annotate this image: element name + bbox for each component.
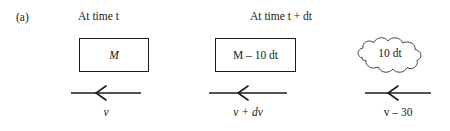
physics-figure-rocket-mass: (a) At time t At time t + dt M M – 10 dt… xyxy=(0,0,450,131)
mass-box-final: M – 10 dt xyxy=(215,38,296,72)
velocity-label-final: v + dv xyxy=(208,106,288,118)
velocity-arrow-final-icon xyxy=(208,85,288,101)
velocity-arrow-initial-icon xyxy=(70,85,142,101)
column-header-initial-time: At time t xyxy=(78,10,119,23)
mass-box-initial-label: M xyxy=(109,49,119,61)
velocity-label-initial: v xyxy=(70,106,142,118)
mass-box-final-label: M – 10 dt xyxy=(233,49,278,61)
part-label: (a) xyxy=(16,11,29,24)
velocity-arrow-exhaust-icon xyxy=(364,85,432,101)
mass-box-initial: M xyxy=(79,38,149,72)
column-header-final-time: At time t + dt xyxy=(250,10,312,23)
ejected-mass-cloud-label: 10 dt xyxy=(352,47,428,59)
velocity-label-exhaust: v – 30 xyxy=(358,106,438,118)
